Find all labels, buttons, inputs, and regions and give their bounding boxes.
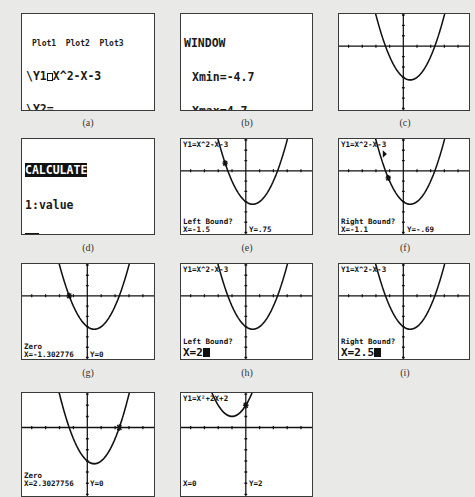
caption-a: (a): [21, 117, 155, 128]
setting-xmin[interactable]: Xmin=-4.7: [184, 72, 254, 83]
function-curve: [374, 14, 445, 80]
panel-h-left-bound-entry: Y1=X^2-X-3 Left Bound? X=2: [180, 263, 313, 360]
caption-e: (e): [180, 242, 314, 253]
panel-a-y-editor: Plot1 Plot2 Plot3 \Y1X^2-X-3 \Y2= \Y3= \…: [21, 13, 155, 111]
graph-canvas: [181, 393, 312, 496]
trace-cursor-icon: [243, 402, 249, 409]
plot1-toggle[interactable]: Plot1: [32, 39, 56, 48]
function-row-y2[interactable]: \Y2=: [26, 104, 124, 111]
caption-i: (i): [338, 367, 472, 378]
function-label: Y1=X^2-X-3: [341, 266, 386, 274]
graph-canvas: [339, 14, 469, 110]
trace-cursor-icon: [117, 424, 123, 431]
caption-c: (c): [338, 117, 472, 128]
y-value: Y=.75: [249, 226, 272, 234]
x-value: X=-1.1: [341, 226, 368, 234]
menu-item-value[interactable]: 1:value: [25, 200, 101, 212]
menu-title[interactable]: CALCULATE: [25, 163, 87, 177]
caption-d: (d): [21, 242, 155, 253]
x-value: X=-1.302776: [24, 351, 74, 359]
prompt-label: Right Bound?: [341, 338, 395, 346]
x-value: X=-1.5: [183, 226, 210, 234]
panel-d-calculate-menu: CALCULATE 1:value 2:zero 3:minimum 4:max…: [21, 138, 155, 235]
panel-g-zero-result: Zero X=-1.302776 Y=0: [21, 263, 155, 360]
y-value: Y=-.69: [407, 226, 434, 234]
setting-xmax[interactable]: Xmax=4.7: [184, 106, 254, 111]
panel-c-graph: [338, 13, 470, 111]
panel-f-right-bound: Y1=X^2-X-3 Right Bound? X=-1.1 Y=-.69: [338, 138, 470, 235]
y-value: Y=0: [90, 351, 104, 359]
x-value: X=2.3027756: [24, 480, 74, 488]
axes: [181, 393, 312, 496]
panel-j-second-zero: Zero X=2.3027756 Y=0: [21, 392, 155, 497]
trace-cursor-icon: [386, 175, 391, 181]
y-value: Y=0: [90, 480, 104, 488]
panel-e-left-bound: Y1=X^2-X-3 Left Bound? X=-1.5 Y=.75: [180, 138, 313, 235]
x-entry-field[interactable]: X=2.5: [341, 347, 381, 358]
calculate-menu: CALCULATE 1:value 2:zero 3:minimum 4:max…: [25, 141, 101, 235]
axes: [339, 14, 469, 110]
plot3-toggle[interactable]: Plot3: [99, 39, 123, 48]
caption-g: (g): [21, 367, 155, 378]
left-bound-marker-icon: [383, 150, 387, 158]
caption-h: (h): [180, 367, 314, 378]
x-entry-field[interactable]: X=2: [183, 347, 210, 358]
x-value: X=0: [183, 480, 197, 488]
function-label: Y1=X^2-X-3: [183, 266, 228, 274]
function-label: Y1=X²+2X+2: [183, 395, 228, 403]
text-cursor: [374, 348, 381, 357]
panel-i-right-bound-entry: Y1=X^2-X-3 Right Bound? X=2.5: [338, 263, 470, 360]
window-title: WINDOW: [184, 38, 254, 49]
y-value: Y=2: [249, 480, 263, 488]
window-text: WINDOW Xmin=-4.7 Xmax=4.7 Xscl=1 Ymin=-6…: [184, 16, 254, 111]
y-editor-text: Plot1 Plot2 Plot3 \Y1X^2-X-3 \Y2= \Y3= \…: [26, 17, 124, 111]
text-cursor: [203, 348, 210, 357]
function-row-y1[interactable]: \Y1X^2-X-3: [26, 71, 124, 82]
plot2-toggle[interactable]: Plot2: [66, 39, 90, 48]
prompt-label: Left Bound?: [183, 338, 233, 346]
function-label: Y1=X^2-X-3: [183, 141, 228, 149]
caption-f: (f): [338, 242, 472, 253]
caption-b: (b): [180, 117, 314, 128]
trace-cursor-icon: [222, 160, 228, 166]
function-label: Y1=X^2-X-3: [341, 141, 386, 149]
panel-k-second-function: Y1=X²+2X+2 X=0 Y=2: [180, 392, 313, 497]
panel-b-window: WINDOW Xmin=-4.7 Xmax=4.7 Xscl=1 Ymin=-6…: [180, 13, 313, 111]
trace-cursor-icon: [66, 293, 72, 299]
